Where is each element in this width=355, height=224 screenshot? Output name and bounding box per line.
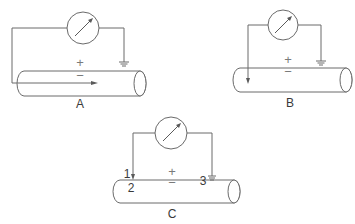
minus-sign: − <box>168 175 176 190</box>
panel-b: + − B <box>233 10 352 110</box>
ground-icon <box>316 61 326 65</box>
ground-icon <box>119 62 129 66</box>
electrophysiology-diagram: + − A + − B <box>0 0 355 224</box>
galvanometer-icon <box>155 117 187 149</box>
panel-label-b: B <box>286 96 294 110</box>
point-label-3: 3 <box>200 174 207 188</box>
ground-icon <box>208 176 216 180</box>
galvanometer-icon <box>268 10 298 40</box>
panel-c: 1 2 3 + − C <box>113 117 240 221</box>
arrowhead-icon <box>131 174 135 180</box>
minus-sign: − <box>76 68 84 83</box>
point-label-2: 2 <box>128 181 135 195</box>
wire-right <box>298 25 321 61</box>
galvanometer-icon <box>67 12 99 44</box>
axon-cylinder-icon <box>233 68 352 92</box>
panel-label-a: A <box>76 97 84 111</box>
panel-label-c: C <box>168 207 177 221</box>
wire-right <box>187 133 212 176</box>
point-label-1: 1 <box>124 167 131 181</box>
minus-sign: − <box>284 64 292 79</box>
wire-right <box>99 28 124 62</box>
wire-left <box>133 133 155 176</box>
panel-a: + − A <box>12 12 146 111</box>
